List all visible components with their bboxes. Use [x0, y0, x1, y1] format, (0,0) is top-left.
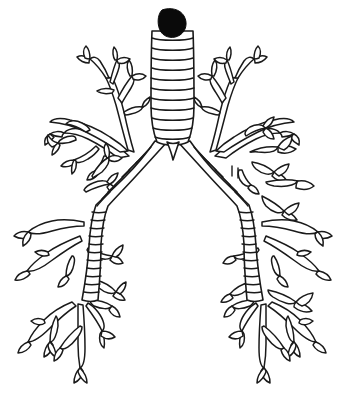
cartilage-ring: [243, 260, 258, 261]
cartilage-ring: [89, 236, 103, 237]
cartilage-ring: [87, 260, 102, 261]
cartilage-ring: [242, 244, 256, 245]
cartilage-ring: [242, 236, 256, 237]
cartilage-ring: [87, 268, 101, 269]
cartilage-ring: [85, 284, 100, 285]
cartilage-ring: [246, 292, 261, 293]
cartilage-ring: [84, 292, 99, 293]
cartilage-ring: [244, 268, 258, 269]
cartilage-ring: [241, 228, 255, 229]
cartilage-ring: [92, 212, 106, 213]
cartilage-ring: [89, 244, 103, 245]
cartilage-ring: [239, 212, 253, 213]
cartilage-ring: [90, 228, 104, 229]
branch-tip: [97, 89, 114, 94]
cartilage-ring: [244, 276, 259, 277]
cartilage-ring: [245, 284, 260, 285]
cartilage-ring: [240, 220, 254, 221]
mass-shape: [158, 9, 186, 38]
obstruction-mass: [158, 9, 186, 38]
branch-tip: [109, 156, 122, 162]
trachea: [151, 31, 194, 145]
bronchial-tree-illustration: [0, 0, 347, 402]
cartilage-ring: [88, 252, 102, 253]
trachea-outline: [151, 31, 194, 145]
cartilage-ring: [86, 276, 101, 277]
bronchial-tree-figure: [0, 0, 347, 402]
cartilage-ring: [91, 220, 105, 221]
cartilage-ring: [243, 252, 257, 253]
